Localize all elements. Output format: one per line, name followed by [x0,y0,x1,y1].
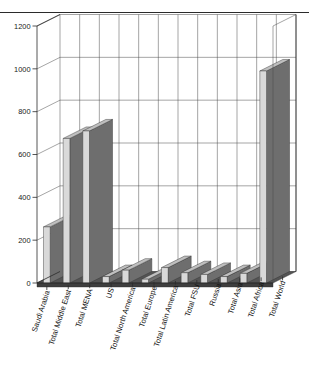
y-tick-label: 600 [18,150,30,159]
bar [260,59,290,283]
y-tick-label: 1200 [14,22,30,31]
category-label: Total Middle East [47,288,74,347]
category-label: Total Europe [137,285,159,328]
y-tick-label: 800 [18,107,30,116]
y-tick-label: 1000 [14,65,30,74]
y-tick-label: 400 [18,193,30,202]
bar [83,119,113,283]
category-label: Total FSU [183,283,202,317]
y-tick-label: 200 [18,236,30,245]
y-tick-labels-group: 020040060080010001200 [14,22,30,288]
category-labels-group: Saudi ArabiaTotal Middle EastTotal MENAU… [30,277,288,352]
bar-chart-3d: 020040060080010001200 Saudi ArabiaTotal … [0,14,309,391]
y-tick-label: 0 [26,279,30,288]
category-label: US [104,287,116,300]
chart-svg: 020040060080010001200 Saudi ArabiaTotal … [0,14,309,391]
chart-page: 020040060080010001200 Saudi ArabiaTotal … [0,0,309,391]
category-label: Total MENA [74,287,95,329]
category-label: Saudi Arabia [30,289,52,333]
top-horizontal-rule [0,12,309,13]
